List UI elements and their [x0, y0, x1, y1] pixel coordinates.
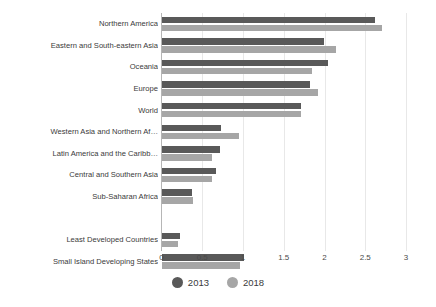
- bar-2018: [162, 25, 382, 31]
- category-label: Sub-Saharan Africa: [6, 192, 158, 201]
- bar-2013: [162, 81, 310, 87]
- x-axis-tick-label: 1: [241, 253, 245, 262]
- bar-2013: [162, 146, 220, 152]
- bar-2018: [162, 89, 318, 95]
- category-row: Oceania: [0, 56, 436, 78]
- bar-2013: [162, 233, 180, 239]
- category-row: Western Asia and Northern Af…: [0, 121, 436, 143]
- x-axis-tick-label: 2.5: [360, 253, 371, 262]
- category-row: Northern America: [0, 13, 436, 35]
- bar-group: [162, 229, 436, 251]
- bar-group: [162, 143, 436, 165]
- category-label: Oceania: [6, 62, 158, 71]
- x-axis-tick-label: 0: [159, 253, 163, 262]
- category-label: Latin America and the Caribb…: [6, 149, 158, 158]
- x-axis-tick-label: 1.5: [278, 253, 289, 262]
- bar-2013: [162, 60, 328, 66]
- bar-group: [162, 78, 436, 100]
- category-label: Western Asia and Northern Af…: [6, 127, 158, 136]
- category-row: Least Developed Countries: [0, 229, 436, 251]
- category-label: Central and Southern Asia: [6, 170, 158, 179]
- category-label: Least Developed Countries: [6, 235, 158, 244]
- category-label: World: [6, 106, 158, 115]
- bar-2018: [162, 133, 239, 139]
- category-label: Eastern and South-eastern Asia: [6, 41, 158, 50]
- bar-group: [162, 121, 436, 143]
- category-row: Sub-Saharan Africa: [0, 186, 436, 208]
- bar-2013: [162, 189, 192, 195]
- bar-2013: [162, 38, 324, 44]
- category-rows: Northern AmericaEastern and South-easter…: [0, 13, 436, 272]
- category-row: Europe: [0, 78, 436, 100]
- bar-group: [162, 13, 436, 35]
- category-row: World: [0, 99, 436, 121]
- bar-2013: [162, 17, 375, 23]
- category-label: Europe: [6, 84, 158, 93]
- category-row: Central and Southern Asia: [0, 164, 436, 186]
- bar-group: [162, 99, 436, 121]
- x-axis-tick-label: 3: [404, 253, 408, 262]
- bar-2018: [162, 176, 212, 182]
- bar-2018: [162, 241, 178, 247]
- legend-label: 2013: [188, 277, 209, 288]
- category-row: [0, 207, 436, 229]
- x-axis-tick-label: 2: [322, 253, 326, 262]
- category-row: Latin America and the Caribb…: [0, 143, 436, 165]
- circle-marker-icon: [227, 277, 238, 288]
- x-axis-tick-label: 0.5: [197, 253, 208, 262]
- bar-group: [162, 164, 436, 186]
- category-label: Northern America: [6, 19, 158, 28]
- bar-2018: [162, 46, 336, 52]
- bar-chart: Northern AmericaEastern and South-easter…: [0, 0, 436, 307]
- bar-group: [162, 35, 436, 57]
- bar-2013: [162, 168, 216, 174]
- bar-2018: [162, 154, 212, 160]
- bar-2018: [162, 197, 193, 203]
- legend-item[interactable]: 2013: [172, 277, 209, 288]
- chart-legend: 20132018: [0, 277, 436, 288]
- category-row: Eastern and South-eastern Asia: [0, 35, 436, 57]
- legend-item[interactable]: 2018: [227, 277, 264, 288]
- bar-2013: [162, 125, 221, 131]
- bar-group: [162, 207, 436, 229]
- x-axis-tick-labels: 00.511.522.53: [0, 253, 436, 267]
- bar-2013: [162, 103, 301, 109]
- bar-2018: [162, 111, 301, 117]
- bar-group: [162, 186, 436, 208]
- bar-group: [162, 56, 436, 78]
- bar-2018: [162, 68, 312, 74]
- legend-label: 2018: [243, 277, 264, 288]
- circle-marker-icon: [172, 277, 183, 288]
